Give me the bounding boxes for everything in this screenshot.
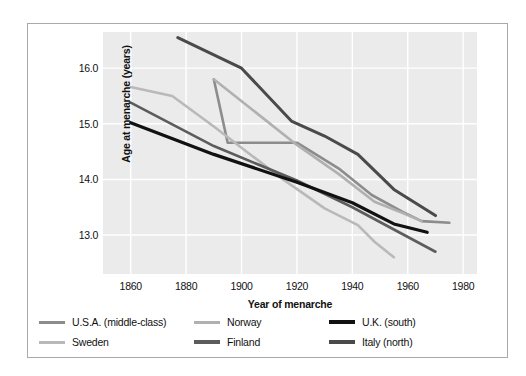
legend-label: U.K. (south): [362, 316, 416, 328]
x-tick-label: 1860: [120, 280, 142, 292]
y-tick-label: 14.0: [79, 173, 98, 185]
legend-swatch: [39, 341, 65, 344]
y-axis-title: Age at menarche (years): [120, 19, 132, 189]
legend-swatch: [329, 320, 355, 324]
legend-item[interactable]: Italy (north): [329, 336, 413, 348]
legend-label: U.S.A. (middle-class): [72, 316, 166, 328]
legend-item[interactable]: U.K. (south): [329, 316, 416, 328]
x-tick-label: 1900: [230, 280, 252, 292]
legend-swatch: [329, 340, 355, 344]
x-tick-label: 1880: [175, 280, 197, 292]
legend-swatch: [194, 321, 220, 324]
chart-area: 13.014.015.016.0 18601880190019201940196…: [28, 24, 507, 309]
legend-label: Italy (north): [362, 336, 413, 348]
plot-area: 13.014.015.016.0 18601880190019201940196…: [103, 32, 477, 274]
legend-item[interactable]: Sweden: [39, 336, 109, 348]
series-line: [178, 38, 436, 216]
legend-label: Finland: [227, 336, 260, 348]
x-tick-label: 1960: [397, 280, 419, 292]
y-tick-label: 15.0: [79, 118, 98, 130]
x-tick-label: 1920: [286, 280, 308, 292]
x-tick-label: 1980: [452, 280, 474, 292]
legend-label: Sweden: [72, 336, 109, 348]
legend-item[interactable]: Norway: [194, 316, 261, 328]
legend-item[interactable]: Finland: [194, 336, 260, 348]
legend-swatch: [194, 340, 220, 344]
x-tick-label: 1940: [341, 280, 363, 292]
legend-label: Norway: [227, 316, 261, 328]
y-tick-label: 13.0: [79, 229, 98, 241]
legend-swatch: [39, 321, 65, 324]
series-lines: [103, 32, 477, 274]
legend-item[interactable]: U.S.A. (middle-class): [39, 316, 166, 328]
x-axis-title: Year of menarche: [103, 298, 477, 310]
figure-frame: 13.014.015.016.0 18601880190019201940196…: [27, 23, 508, 358]
chart-legend: U.S.A. (middle-class)NorwayU.K. (south)S…: [39, 316, 496, 356]
y-tick-label: 16.0: [79, 62, 98, 74]
